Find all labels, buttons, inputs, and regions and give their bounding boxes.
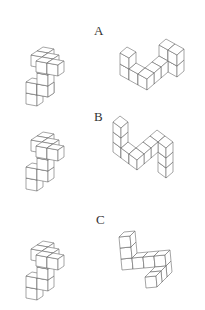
cube-face (132, 257, 144, 269)
cube-face (154, 255, 166, 267)
reference-figure-b (26, 132, 64, 191)
comparison-figure-c (119, 231, 172, 288)
comparison-figure-b (113, 116, 173, 178)
cube-face (119, 236, 131, 248)
option-label-c: C (96, 213, 105, 226)
comparison-figure-a (120, 39, 184, 90)
option-label-a: A (94, 24, 103, 37)
cube-face (121, 258, 133, 270)
reference-figure-c (26, 241, 64, 300)
cube-face (145, 276, 157, 288)
reference-figure-a (26, 47, 64, 106)
option-label-b: B (94, 110, 103, 123)
cube-face (143, 256, 155, 268)
cube-face (120, 247, 132, 259)
figure-canvas (0, 0, 205, 310)
